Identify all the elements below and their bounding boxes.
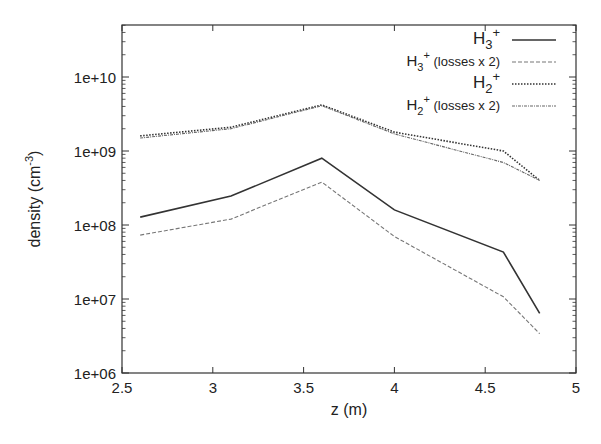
chart: 2.533.544.55 1e+061e+071e+081e+091e+10 H…: [0, 0, 601, 444]
y-tick-label: 1e+09: [74, 143, 116, 160]
y-tick-label: 1e+07: [74, 291, 116, 308]
series-line-1: [140, 182, 540, 334]
y-axis-label: density (cm-3): [23, 151, 43, 248]
x-tick-label: 4.5: [475, 379, 496, 396]
x-tick-label: 4: [390, 379, 398, 396]
legend: H3+​H3+ (losses x 2)H2+​H2+ (losses x 2): [407, 25, 556, 117]
y-tick-label: 1e+06: [74, 365, 116, 382]
series-line-3: [140, 106, 540, 181]
y-tick-label: 1e+08: [74, 217, 116, 234]
series-line-2: [140, 105, 540, 180]
series-line-0: [140, 158, 540, 313]
y-tick-label: 1e+10: [74, 69, 116, 86]
x-axis: 2.533.544.55: [112, 25, 581, 396]
x-tick-label: 3: [209, 379, 217, 396]
legend-label: H3+ (losses x 2): [407, 49, 500, 73]
legend-label: H2+ (losses x 2): [407, 93, 500, 117]
y-axis: 1e+061e+071e+081e+091e+10: [74, 25, 576, 382]
plot-frame: [122, 25, 576, 373]
x-tick-label: 5: [572, 379, 580, 396]
x-axis-label: z (m): [331, 401, 367, 418]
x-tick-label: 3.5: [293, 379, 314, 396]
legend-label: H3+​: [473, 25, 500, 52]
series-group: [140, 105, 540, 334]
legend-label: H2+​: [473, 69, 500, 96]
